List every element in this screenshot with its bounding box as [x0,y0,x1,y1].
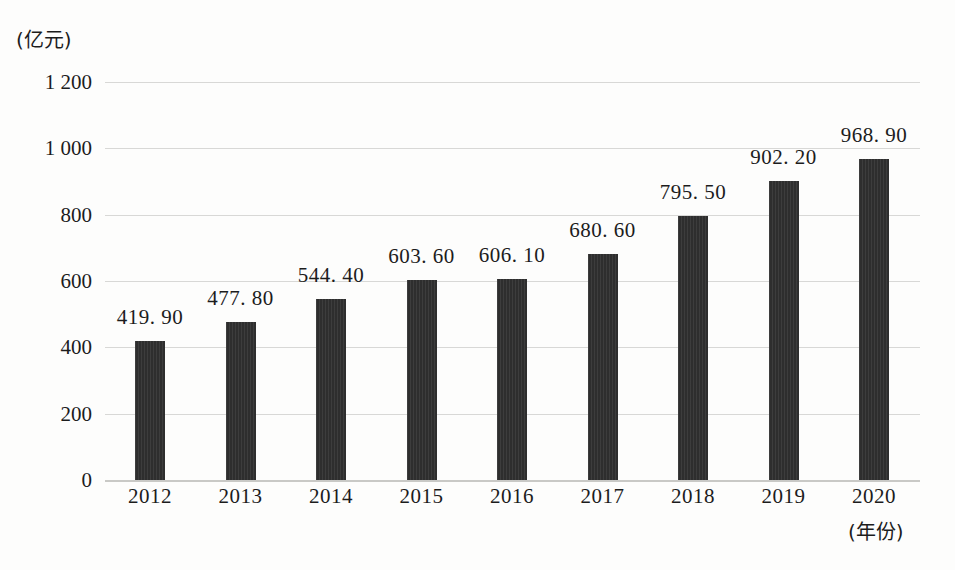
gridline [105,82,920,83]
bar [769,181,799,480]
bar [859,159,889,480]
x-axis-line [105,480,920,482]
bar-value-label: 419. 90 [117,307,184,328]
y-axis-tick-label: 1 200 [45,72,92,93]
x-axis-tick-label: 2012 [128,486,172,507]
bar [588,254,618,480]
y-axis-tick-label: 600 [61,271,93,292]
x-axis-tick-label: 2017 [581,486,625,507]
bar-value-label: 477. 80 [207,288,274,309]
chart-page: (亿元) 02004006008001 0001 200419. 9020124… [0,0,955,570]
y-axis-unit-label: (亿元) [16,24,72,53]
x-axis-tick-label: 2014 [309,486,353,507]
x-axis-tick-label: 2020 [852,486,896,507]
bar-value-label: 603. 60 [388,246,455,267]
x-axis-tick-label: 2016 [490,486,534,507]
y-axis-tick-label: 400 [61,337,93,358]
plot-area: 02004006008001 0001 200419. 902012477. 8… [105,82,920,480]
bar-value-label: 544. 40 [298,265,365,286]
bar [678,216,708,480]
y-axis-tick-label: 800 [61,204,93,225]
bar-value-label: 902. 20 [750,147,817,168]
y-axis-tick-label: 1 000 [45,138,92,159]
bar-value-label: 606. 10 [479,245,546,266]
x-axis-tick-label: 2015 [400,486,444,507]
x-axis-unit-label: (年份) [848,516,904,545]
bar [135,341,165,480]
bar [497,279,527,480]
bar-value-label: 968. 90 [841,125,908,146]
bar [407,280,437,480]
x-axis-tick-label: 2019 [762,486,806,507]
bar [316,299,346,480]
bar-value-label: 680. 60 [569,220,636,241]
bar-value-label: 795. 50 [660,182,727,203]
x-axis-tick-label: 2018 [671,486,715,507]
y-axis-tick-label: 0 [82,470,93,491]
y-axis-tick-label: 200 [61,403,93,424]
bar [226,322,256,480]
x-axis-tick-label: 2013 [219,486,263,507]
